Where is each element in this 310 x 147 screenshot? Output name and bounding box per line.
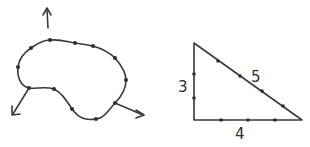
arrow-right-icon [115,103,144,118]
closed-curve-figure [12,8,144,121]
arrow-down-left-icon [12,88,29,115]
label-side-3: 3 [178,78,188,96]
triangle-tick-marks [192,59,285,122]
right-triangle-figure: 3 5 4 [178,43,302,143]
label-hypotenuse-5: 5 [251,68,261,86]
arrow-up-icon [43,8,51,28]
label-side-4: 4 [235,125,245,143]
triangle-outline [194,43,302,120]
diagram-canvas: 3 5 4 [0,0,310,147]
